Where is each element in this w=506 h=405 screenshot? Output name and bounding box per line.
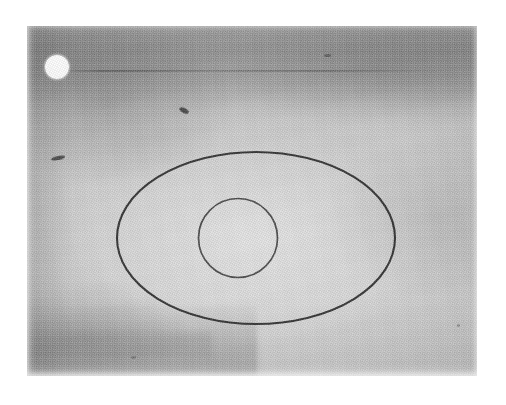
figure-root <box>0 0 506 405</box>
photograph-plate <box>27 26 477 376</box>
film-grain-overlay <box>27 26 477 376</box>
